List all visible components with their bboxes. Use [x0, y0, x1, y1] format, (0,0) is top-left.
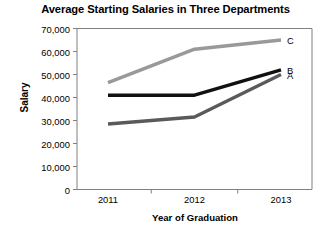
- y-axis-tick-label: 0: [8, 184, 70, 195]
- y-axis-tick-label: 50,000: [8, 69, 70, 80]
- x-axis-tick-label: 2011: [83, 194, 133, 205]
- y-axis-tick-label: 10,000: [8, 161, 70, 172]
- x-axis-ticks: [151, 190, 238, 194]
- y-axis-tick-label: 60,000: [8, 46, 70, 57]
- series-label-a: A: [287, 69, 293, 80]
- series-line-a: [108, 75, 281, 124]
- y-axis-tick-label: 20,000: [8, 138, 70, 149]
- y-axis-tick-label: 70,000: [8, 23, 70, 34]
- y-axis-ticks: [73, 29, 77, 190]
- y-axis-tick-label: 40,000: [8, 92, 70, 103]
- axis-frame: [77, 29, 312, 190]
- chart-container: Average Starting Salaries in Three Depar…: [0, 0, 331, 228]
- series-label-c: C: [287, 35, 294, 46]
- x-axis-tick-label: 2013: [256, 194, 306, 205]
- x-axis-tick-label: 2012: [170, 194, 220, 205]
- series-lines: [108, 40, 281, 124]
- y-axis-tick-label: 30,000: [8, 115, 70, 126]
